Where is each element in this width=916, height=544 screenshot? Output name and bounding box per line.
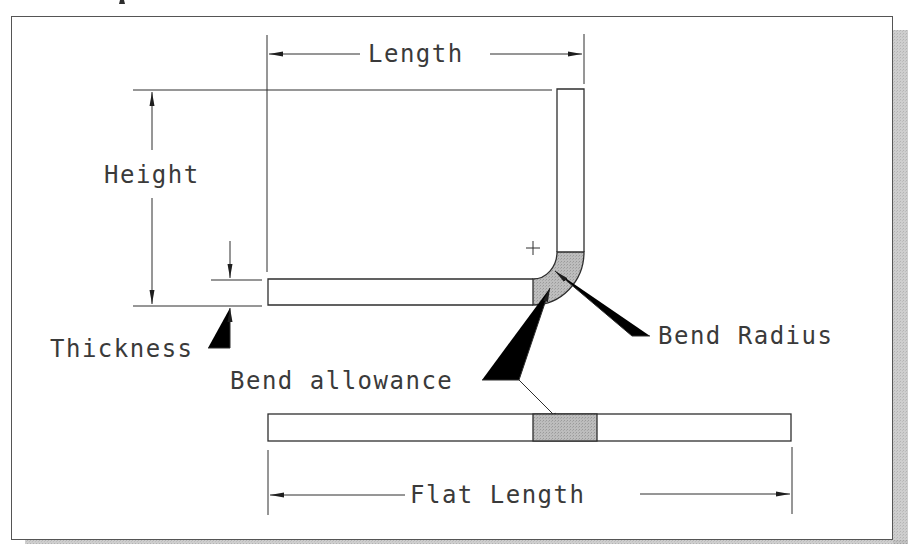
- diagram-canvas: Length Height Thickness Bend Radius Bend…: [0, 0, 916, 544]
- flat-pattern: [268, 414, 791, 441]
- thickness-label: Thickness: [50, 335, 194, 363]
- figure-frame: [12, 17, 893, 540]
- bend-allowance-label: Bend allowance: [230, 367, 453, 395]
- height-label: Height: [104, 161, 200, 189]
- flat-bend-allowance-region: [533, 414, 597, 441]
- clipped-glyph-fragment: [119, 0, 125, 4]
- flat-strip: [268, 414, 791, 441]
- bend-radius-label: Bend Radius: [658, 322, 833, 350]
- bend-diagram-figure: Length Height Thickness Bend Radius Bend…: [0, 0, 916, 544]
- flat-length-label: Flat Length: [410, 481, 585, 509]
- length-label: Length: [368, 40, 464, 68]
